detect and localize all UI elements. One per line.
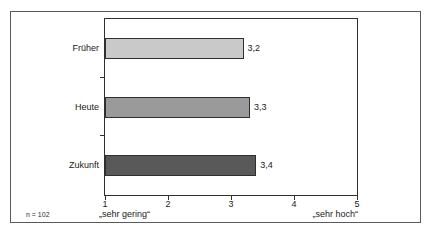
bar-value-label: 3,3	[254, 97, 267, 118]
y-axis-category-tick	[100, 135, 105, 136]
page: { "chart_data": { "type": "bar", "orient…	[0, 0, 429, 232]
x-axis-min-anchor-label: „sehr gering“	[99, 209, 150, 219]
y-axis-category-tick	[100, 77, 105, 78]
category-label: Zukunft	[16, 155, 99, 176]
bar-2	[105, 97, 250, 118]
figure-frame: 3,23,33,4 „sehr gering“ „sehr hoch“ n = …	[10, 11, 421, 223]
sample-size-note: n = 102	[26, 211, 50, 218]
bar-3	[105, 155, 256, 176]
x-axis-tick-label: 5	[354, 199, 359, 209]
category-label: Heute	[16, 97, 99, 118]
x-axis-tick-label: 3	[228, 199, 233, 209]
category-label: Früher	[16, 38, 99, 59]
plot-area: 3,23,33,4	[104, 18, 358, 196]
bar-value-label: 3,4	[260, 155, 273, 176]
x-axis-tick-label: 1	[102, 199, 107, 209]
bar-value-label: 3,2	[248, 38, 261, 59]
x-axis-tick-label: 2	[165, 199, 170, 209]
x-axis-tick-label: 4	[291, 199, 296, 209]
bar-1	[105, 38, 244, 59]
x-axis-max-anchor-label: „sehr hoch“	[312, 209, 358, 219]
